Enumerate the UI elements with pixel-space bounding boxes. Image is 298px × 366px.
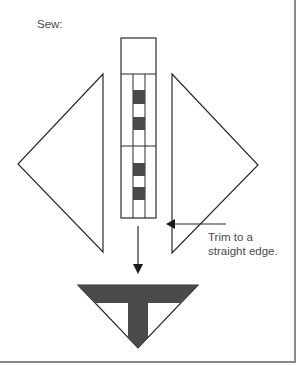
diagram-canvas: Sew: Trim to a straight edge. [0,0,298,366]
right-triangle [172,74,258,253]
dark-block [133,163,145,176]
frame-border-bottom [0,361,296,363]
dark-block [133,117,145,130]
down-arrow-icon [133,226,143,274]
trim-line-2: straight edge. [208,244,298,258]
frame-border-right [294,0,296,362]
result-t-block [78,285,198,348]
dark-block [133,90,145,104]
trim-instruction: Trim to a straight edge. [208,230,298,258]
trim-line-1: Trim to a [208,230,298,244]
sewing-diagram [0,0,298,366]
trim-arrow-icon [166,219,226,229]
dark-block [133,187,145,200]
step-label: Sew: [37,17,63,31]
center-strip [121,38,156,218]
left-triangle [18,74,103,252]
